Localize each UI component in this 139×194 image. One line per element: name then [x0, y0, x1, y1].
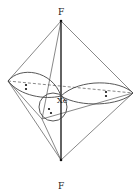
xef2-diagram: F F Xe — [0, 0, 139, 194]
xe-label: Xe — [57, 96, 68, 105]
bipyramid-edges — [8, 21, 133, 160]
top-vertex — [60, 20, 63, 23]
bottom-vertex — [60, 159, 63, 162]
bottom-f-label: F — [58, 181, 64, 191]
lone-pair-lobes — [8, 72, 133, 121]
lobe-left — [8, 72, 61, 97]
top-f-label: F — [58, 7, 64, 17]
lobe-right — [61, 83, 133, 104]
